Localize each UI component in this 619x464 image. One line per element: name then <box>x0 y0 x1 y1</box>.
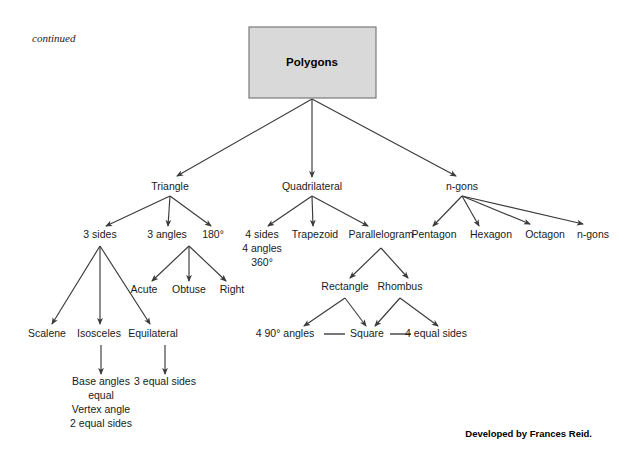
node-quadrilateral[interactable]: Quadrilateral <box>282 180 342 192</box>
quadrilateral-detail-text: 4 angles 360° <box>242 242 282 268</box>
arrow-triangle-to-3-angles <box>168 196 170 226</box>
connectors-three-angles <box>152 246 226 281</box>
node-pentagon[interactable]: Pentagon <box>412 228 457 240</box>
arrow-rectangle-to-90-angles <box>304 298 345 326</box>
node-ngons-leaf[interactable]: n-gons <box>577 228 609 240</box>
arrow-quadrilateral-to-trapezoid <box>312 196 313 226</box>
node-triangle[interactable]: Triangle <box>151 180 189 192</box>
connectors-triangle-details <box>101 345 165 374</box>
node-trapezoid[interactable]: Trapezoid <box>292 228 338 240</box>
node-isosceles[interactable]: Isosceles <box>77 327 121 339</box>
arrow-polygons-to-ngons <box>312 99 456 176</box>
arrow-3-sides-to-scalene <box>52 246 100 324</box>
connectors-ngons <box>433 196 583 226</box>
level4-nodes: Scalene Isosceles Equilateral 4 90° angl… <box>28 327 467 339</box>
arrow-polygons-to-triangle <box>177 99 312 176</box>
node-right[interactable]: Right <box>220 283 245 295</box>
node-octagon[interactable]: Octagon <box>525 228 565 240</box>
arrow-triangle-to-3-sides <box>106 196 170 226</box>
detail-four-angles: 4 angles <box>242 242 282 254</box>
arrow-parallelogram-to-rectangle <box>350 248 381 278</box>
level1-nodes: Triangle Quadrilateral n-gons <box>151 180 478 192</box>
level2-nodes: 3 sides 3 angles 180° 4 sides Trapezoid … <box>83 228 609 240</box>
detail-360-degrees: 360° <box>251 256 273 268</box>
arrow-triangle-to-180-degrees <box>170 196 211 226</box>
node-equilateral[interactable]: Equilateral <box>128 327 178 339</box>
node-ngons[interactable]: n-gons <box>446 180 478 192</box>
node-hexagon[interactable]: Hexagon <box>470 228 512 240</box>
detail-base-angles-equal: equal <box>88 389 114 401</box>
connectors-root-to-level1 <box>177 99 456 177</box>
level3-nodes: Acute Obtuse Right Rectangle Rhombus <box>131 280 423 295</box>
arrow-rhombus-to-4-equal-sides <box>400 298 438 326</box>
detail-base-angles: Base angles <box>72 375 130 387</box>
node-four-sides[interactable]: 4 sides <box>245 228 278 240</box>
arrow-parallelogram-to-rhombus <box>381 248 408 278</box>
detail-two-equal-sides: 2 equal sides <box>70 417 132 429</box>
credit-line: Developed by Frances Reid. <box>465 428 592 439</box>
node-parallelogram[interactable]: Parallelogram <box>349 228 414 240</box>
detail-vertex-angle: Vertex angle <box>72 403 131 415</box>
node-scalene[interactable]: Scalene <box>28 327 66 339</box>
arrow-ngons-to-octagon <box>462 196 530 224</box>
arrow-quadrilateral-to-4-sides <box>268 196 312 226</box>
arrow-quadrilateral-to-parallelogram <box>312 196 368 226</box>
arrow-rhombus-to-square <box>375 298 400 326</box>
arrow-rectangle-to-square <box>345 298 366 326</box>
detail-three-equal-sides: 3 equal sides <box>134 375 196 387</box>
diagram-page: Polygons Triangle Quadrilateral n-gons 3… <box>0 0 619 464</box>
level5-detail-nodes: Base angles equal Vertex angle 2 equal s… <box>70 375 196 429</box>
arrow-3-angles-to-acute <box>152 246 189 281</box>
root-node-polygons[interactable]: Polygons <box>249 27 376 98</box>
node-four-equal-sides[interactable]: 4 equal sides <box>405 327 467 339</box>
polygons-classification-diagram: Polygons Triangle Quadrilateral n-gons 3… <box>0 0 619 464</box>
connectors-quadrilateral <box>268 196 368 226</box>
connectors-rectangle-rhombus <box>304 298 438 326</box>
arrow-3-angles-to-right <box>189 246 226 281</box>
connectors-triangle <box>106 196 211 226</box>
polygons-label: Polygons <box>286 56 338 68</box>
arrow-ngons-to-ngons-leaf <box>462 196 583 224</box>
continued-note: continued <box>32 32 76 44</box>
node-square[interactable]: Square <box>350 327 384 339</box>
node-obtuse[interactable]: Obtuse <box>172 283 206 295</box>
node-180-degrees[interactable]: 180° <box>202 228 224 240</box>
node-rectangle[interactable]: Rectangle <box>321 280 368 292</box>
node-acute[interactable]: Acute <box>131 283 158 295</box>
node-rhombus[interactable]: Rhombus <box>378 280 423 292</box>
node-four-90-angles[interactable]: 4 90° angles <box>256 327 315 339</box>
arrow-ngons-to-hexagon <box>462 196 479 226</box>
connectors-parallelogram <box>350 248 408 278</box>
arrow-ngons-to-pentagon <box>433 196 462 226</box>
node-three-sides[interactable]: 3 sides <box>83 228 116 240</box>
node-three-angles[interactable]: 3 angles <box>147 228 187 240</box>
